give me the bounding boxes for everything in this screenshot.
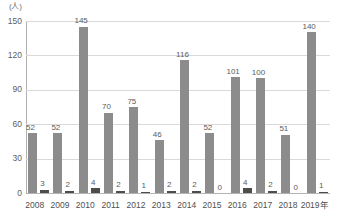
x-axis-tick-label: 2010 — [73, 200, 98, 210]
bar-value-label: 75 — [121, 97, 143, 106]
bar-series-1-2010 — [79, 27, 88, 193]
bar-value-label: 140 — [298, 22, 320, 31]
bar-value-label: 4 — [234, 178, 256, 187]
bar-value-label: 3 — [32, 179, 54, 188]
bar-value-label: 2 — [184, 180, 206, 189]
y-axis-unit-label: (人) — [9, 2, 22, 12]
bar-group: 1162 — [178, 21, 203, 193]
bar-series-2-2016 — [243, 188, 252, 193]
bar-group: 702 — [102, 21, 127, 193]
bar-series-1-2017 — [256, 78, 265, 193]
bar-series-2-2010 — [91, 188, 100, 193]
bar-series-2-2012 — [141, 192, 150, 193]
bar-value-label: 0 — [285, 183, 307, 192]
bar-value-label: 145 — [70, 16, 92, 25]
bar-group: 1014 — [229, 21, 254, 193]
y-axis-tick-label: 150 — [2, 17, 22, 26]
bar-series-2-2011 — [116, 191, 125, 193]
bar-value-label: 4 — [82, 178, 104, 187]
bar-chart: (人) 523522145470275146211625201014100251… — [0, 0, 337, 222]
bar-value-label: 101 — [222, 67, 244, 76]
bar-group: 1401 — [305, 21, 330, 193]
bar-value-label: 1 — [310, 181, 332, 190]
bar-value-label: 100 — [248, 68, 270, 77]
x-axis-tick-label: 2015 — [199, 200, 224, 210]
x-axis-tick-label: 2008 — [22, 200, 47, 210]
bar-value-label: 46 — [146, 130, 168, 139]
x-axis-tick-label: 2011 — [98, 200, 123, 210]
y-axis-tick-label: 120 — [2, 51, 22, 60]
bar-series-2-2009 — [65, 191, 74, 193]
y-axis-tick-label: 90 — [2, 85, 22, 94]
bar-series-1-2016 — [231, 77, 240, 193]
x-axis-tick-label: 2018 — [275, 200, 300, 210]
plot-area: 5235221454702751462116252010141002510140… — [26, 21, 330, 193]
bar-value-label: 52 — [20, 123, 42, 132]
bar-series-1-2012 — [129, 107, 138, 193]
bar-value-label: 52 — [197, 123, 219, 132]
bar-series-2-2008 — [40, 190, 49, 193]
bar-value-label: 70 — [96, 102, 118, 111]
bar-group: 510 — [279, 21, 304, 193]
bar-group: 522 — [51, 21, 76, 193]
bar-series-1-2014 — [180, 60, 189, 193]
bar-series-2-2013 — [167, 191, 176, 193]
gridline-0 — [26, 193, 330, 194]
x-axis-tick-label: 2012 — [123, 200, 148, 210]
bar-group: 523 — [26, 21, 51, 193]
y-axis-tick-label: 30 — [2, 154, 22, 163]
y-axis-tick-label: 0 — [2, 189, 22, 198]
bar-series-2-2017 — [268, 191, 277, 193]
bar-group: 1002 — [254, 21, 279, 193]
bar-value-label: 51 — [273, 124, 295, 133]
y-axis-tick-label: 60 — [2, 120, 22, 129]
x-axis-tick-label: 2014 — [174, 200, 199, 210]
bar-series-2-2019年 — [319, 192, 328, 193]
x-axis-tick-label: 2017 — [250, 200, 275, 210]
bar-value-label: 2 — [260, 180, 282, 189]
bar-group: 462 — [153, 21, 178, 193]
x-axis-tick-label: 2013 — [149, 200, 174, 210]
bar-value-label: 1 — [133, 181, 155, 190]
x-axis-tick-label: 2009 — [47, 200, 72, 210]
bar-group: 520 — [203, 21, 228, 193]
bar-group: 751 — [127, 21, 152, 193]
bar-value-label: 116 — [172, 50, 194, 59]
bar-value-label: 0 — [209, 183, 231, 192]
bar-value-label: 2 — [158, 180, 180, 189]
x-axis-tick-label: 2016 — [225, 200, 250, 210]
bar-series-1-2019年 — [307, 32, 316, 193]
bar-value-label: 2 — [57, 180, 79, 189]
bar-series-2-2014 — [192, 191, 201, 193]
bar-value-label: 52 — [45, 123, 67, 132]
x-axis-tick-label: 2019年 — [301, 200, 326, 210]
bar-value-label: 2 — [108, 180, 130, 189]
